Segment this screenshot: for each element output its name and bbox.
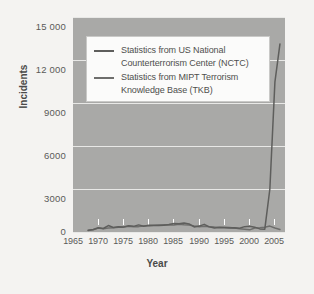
chart-legend: Statistics from US National Counterterro… bbox=[86, 36, 270, 102]
legend-entry-tkb: Statistics from MIPT Terrorism Knowledge… bbox=[94, 71, 263, 96]
y-axis-title: Incidents bbox=[18, 95, 29, 109]
ytick-label-15000: 15 000 bbox=[6, 21, 66, 32]
axis-line-x bbox=[73, 232, 285, 233]
xtick-label-2005: 2005 bbox=[257, 236, 291, 246]
legend-label-nctc: Statistics from US National Counterterro… bbox=[121, 44, 263, 69]
legend-swatch-tkb bbox=[94, 77, 114, 79]
ytick-label-6000: 6000 bbox=[6, 150, 66, 161]
legend-swatch-nctc bbox=[94, 50, 114, 52]
legend-label-tkb: Statistics from MIPT Terrorism Knowledge… bbox=[121, 71, 263, 96]
ytick-label-12000: 12 000 bbox=[6, 64, 66, 75]
legend-entry-nctc: Statistics from US National Counterterro… bbox=[94, 44, 263, 69]
x-axis-title: Year bbox=[0, 258, 314, 269]
chart-figure: 15 000 12 000 9000 6000 3000 0 1965 1970… bbox=[0, 0, 314, 294]
ytick-label-3000: 3000 bbox=[6, 193, 66, 204]
ytick-label-9000: 9000 bbox=[6, 107, 66, 118]
